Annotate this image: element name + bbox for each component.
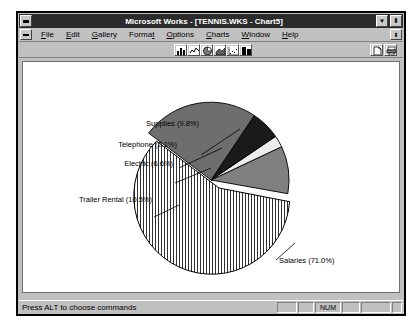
menu-bar: File Edit Gallery Format Options Charts … xyxy=(19,28,403,42)
new-document-icon[interactable] xyxy=(370,44,383,56)
maximize-icon[interactable]: ⬍ xyxy=(390,15,402,27)
pie-label-electric: Electric (6.6%) xyxy=(124,159,173,168)
screenshot-root: Microsoft Works - [TENNIS.WKS - Chart5] … xyxy=(0,0,420,329)
menu-item-help[interactable]: Help xyxy=(276,30,304,39)
status-cell-6 xyxy=(392,302,402,313)
toolbar xyxy=(19,42,403,58)
status-cell-4 xyxy=(342,302,360,313)
title-bar: Microsoft Works - [TENNIS.WKS - Chart5] … xyxy=(19,14,403,28)
application-window: Microsoft Works - [TENNIS.WKS - Chart5] … xyxy=(16,11,406,316)
status-cell-5 xyxy=(361,302,391,313)
document-system-menu-icon[interactable] xyxy=(20,29,32,40)
toolbar-document-group xyxy=(370,44,397,56)
bar-chart-icon[interactable] xyxy=(174,44,187,56)
menu-item-options[interactable]: Options xyxy=(160,30,200,39)
status-message: Press ALT to choose commands xyxy=(19,303,277,312)
chart-canvas[interactable]: Supplies (9.8%) Telephone (2.1%) Electri… xyxy=(22,61,400,293)
minimize-icon[interactable]: ▾ xyxy=(376,15,388,27)
system-menu-icon[interactable] xyxy=(20,15,32,27)
pie-chart: Supplies (9.8%) Telephone (2.1%) Electri… xyxy=(23,62,399,292)
document-restore-icon[interactable]: ⬍ xyxy=(390,29,402,40)
menu-item-charts[interactable]: Charts xyxy=(200,30,236,39)
menu-item-window[interactable]: Window xyxy=(236,30,276,39)
line-chart-icon[interactable] xyxy=(187,44,200,56)
stacked-chart-icon[interactable] xyxy=(239,44,252,56)
status-cell-2 xyxy=(298,302,314,313)
pie-label-salaries: Salaries (71.0%) xyxy=(279,256,335,265)
pie-label-supplies: Supplies (9.8%) xyxy=(146,119,199,128)
status-cell-1 xyxy=(277,302,297,313)
menu-item-gallery[interactable]: Gallery xyxy=(86,30,123,39)
window-title: Microsoft Works - [TENNIS.WKS - Chart5] xyxy=(33,17,375,26)
pie-chart-icon[interactable] xyxy=(200,44,213,56)
status-bar: Press ALT to choose commands NUM xyxy=(19,300,403,313)
area-chart-icon[interactable] xyxy=(213,44,226,56)
toolbar-chart-type-group xyxy=(174,44,252,56)
pie-label-telephone: Telephone (2.1%) xyxy=(118,140,177,149)
scatter-chart-icon[interactable] xyxy=(226,44,239,56)
menu-item-format[interactable]: Format xyxy=(123,30,160,39)
status-indicator-num: NUM xyxy=(315,302,341,313)
menu-item-edit[interactable]: Edit xyxy=(60,30,86,39)
pie-label-trailer-rental: Trailer Rental (10.5%) xyxy=(79,195,153,204)
print-icon[interactable] xyxy=(384,44,397,56)
menu-item-file[interactable]: File xyxy=(35,30,60,39)
